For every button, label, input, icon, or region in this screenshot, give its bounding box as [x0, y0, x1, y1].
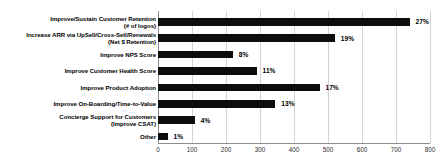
bar-row: Increase ARR via UpSell/Cross-Sell/Renew…: [0, 30, 445, 47]
bar: [158, 84, 320, 92]
bar-container: 17%: [158, 79, 339, 96]
bar-row: Concierge Support for Customers (Improve…: [0, 112, 445, 129]
bar-value-label: 27%: [416, 18, 429, 25]
bar-value-label: 17%: [326, 84, 339, 91]
x-tick-label: 700: [391, 146, 402, 153]
bar: [158, 67, 257, 75]
bar: [158, 18, 410, 26]
bar-rows: Improve/Sustain Customer Retention (# of…: [0, 0, 445, 167]
bar-row: Other1%: [0, 128, 445, 145]
x-axis-ticks: 0100200300400500600700800: [158, 146, 430, 160]
bar-row: Improve/Sustain Customer Retention (# of…: [0, 14, 445, 31]
bar: [158, 34, 335, 42]
x-tick-label: 200: [221, 146, 232, 153]
bar: [158, 116, 195, 124]
bar-chart: Improve/Sustain Customer Retention (# of…: [0, 0, 445, 167]
bar-container: 13%: [158, 96, 295, 113]
bar-value-label: 11%: [263, 67, 276, 74]
x-tick-label: 600: [357, 146, 368, 153]
category-label: Other: [4, 133, 156, 140]
bar: [158, 51, 233, 59]
category-label: Improve Product Adoption: [4, 84, 156, 91]
bar-container: 1%: [158, 128, 183, 145]
bar-value-label: 4%: [201, 117, 211, 124]
bar-value-label: 13%: [281, 100, 294, 107]
bar-value-label: 19%: [341, 35, 354, 42]
bar-value-label: 8%: [239, 51, 249, 58]
bar-container: 4%: [158, 112, 210, 129]
bar-row: Improve On-Boarding/Time-to-Value13%: [0, 96, 445, 113]
x-tick-label: 800: [425, 146, 436, 153]
category-label: Increase ARR via UpSell/Cross-Sell/Renew…: [4, 31, 156, 45]
bar-row: Improve Customer Health Score11%: [0, 63, 445, 80]
x-tick-label: 0: [156, 146, 160, 153]
bar-container: 8%: [158, 46, 248, 63]
bar: [158, 133, 168, 141]
category-label: Concierge Support for Customers (Improve…: [4, 113, 156, 127]
bar-container: 19%: [158, 30, 354, 47]
category-label: Improve NPS Score: [4, 51, 156, 58]
x-tick-label: 300: [255, 146, 266, 153]
category-label: Improve On-Boarding/Time-to-Value: [4, 100, 156, 107]
x-tick-label: 100: [187, 146, 198, 153]
bar-row: Improve Product Adoption17%: [0, 79, 445, 96]
x-tick-label: 400: [289, 146, 300, 153]
x-tick-label: 500: [323, 146, 334, 153]
bar: [158, 100, 275, 108]
bar-row: Improve NPS Score8%: [0, 46, 445, 63]
bar-value-label: 1%: [174, 133, 184, 140]
category-label: Improve/Sustain Customer Retention (# of…: [4, 15, 156, 29]
bar-container: 11%: [158, 63, 275, 80]
category-label: Improve Customer Health Score: [4, 67, 156, 74]
bar-container: 27%: [158, 14, 429, 31]
